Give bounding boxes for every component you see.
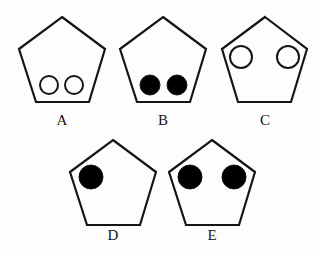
filled-circle-e-2	[222, 165, 246, 189]
open-circle-c-2	[277, 46, 299, 68]
shape-label-e: E	[207, 227, 216, 243]
shape-label-a: A	[57, 112, 68, 128]
filled-circle-b-2	[167, 75, 187, 95]
pentagon-figures-svg: ABCDE	[0, 0, 320, 255]
shape-label-c: C	[260, 112, 270, 128]
shape-label-d: D	[108, 227, 119, 243]
figure-canvas: ABCDE	[0, 0, 320, 255]
pentagon-figure-c[interactable]: C	[222, 17, 307, 128]
filled-circle-e-1	[178, 165, 202, 189]
pentagon-outline-a	[19, 17, 105, 102]
pentagon-outline-b	[120, 17, 206, 102]
filled-circle-b-1	[140, 75, 160, 95]
open-circle-a-1	[40, 76, 58, 94]
pentagon-figure-e[interactable]: E	[169, 140, 255, 243]
filled-circle-d-1	[79, 165, 103, 189]
pentagon-figure-a[interactable]: A	[19, 17, 105, 128]
pentagon-figure-b[interactable]: B	[120, 17, 206, 128]
pentagon-figure-d[interactable]: D	[70, 140, 156, 243]
open-circle-a-2	[65, 76, 83, 94]
open-circle-c-1	[230, 46, 252, 68]
shape-label-b: B	[158, 112, 168, 128]
shapes-group: ABCDE	[19, 17, 307, 243]
